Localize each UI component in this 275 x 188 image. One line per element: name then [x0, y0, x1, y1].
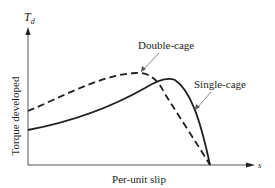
- single-cage-label: Single-cage: [194, 78, 246, 90]
- double-cage-pointer: [143, 53, 159, 70]
- single-cage-curve: [28, 79, 210, 165]
- y-axis-arrow-icon: [26, 27, 31, 35]
- double-cage-pointer-arrow-icon: [141, 66, 146, 72]
- x-axis-label: Per-unit slip: [112, 173, 166, 185]
- x-axis-symbol: s: [258, 160, 262, 170]
- y-axis-symbol: Td: [24, 10, 36, 26]
- torque-slip-chart: Td s Torque developed Per-unit slip Doub…: [0, 0, 275, 188]
- x-axis-arrow-icon: [246, 163, 255, 168]
- y-axis-label: Torque developed: [9, 76, 21, 155]
- double-cage-label: Double-cage: [138, 39, 194, 51]
- single-cage-pointer: [197, 92, 211, 108]
